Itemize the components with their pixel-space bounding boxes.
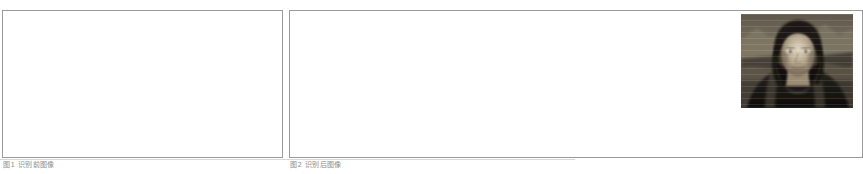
figure-right-panel bbox=[289, 10, 863, 158]
baseline-rule bbox=[0, 159, 575, 160]
figure-left-cell-a bbox=[3, 11, 146, 157]
figure-left-panel bbox=[2, 10, 283, 158]
figure-left-cell-b bbox=[146, 11, 282, 157]
figure-right-cell-a bbox=[290, 11, 724, 157]
mona-lisa-image bbox=[741, 14, 853, 108]
figure-right-caption: 图2 识别后图像 bbox=[290, 161, 342, 170]
mona-lisa-grayscale-svg bbox=[741, 14, 853, 108]
figure-left-caption: 图1 识别前图像 bbox=[3, 161, 55, 170]
figure-right-cell-b bbox=[723, 11, 862, 157]
